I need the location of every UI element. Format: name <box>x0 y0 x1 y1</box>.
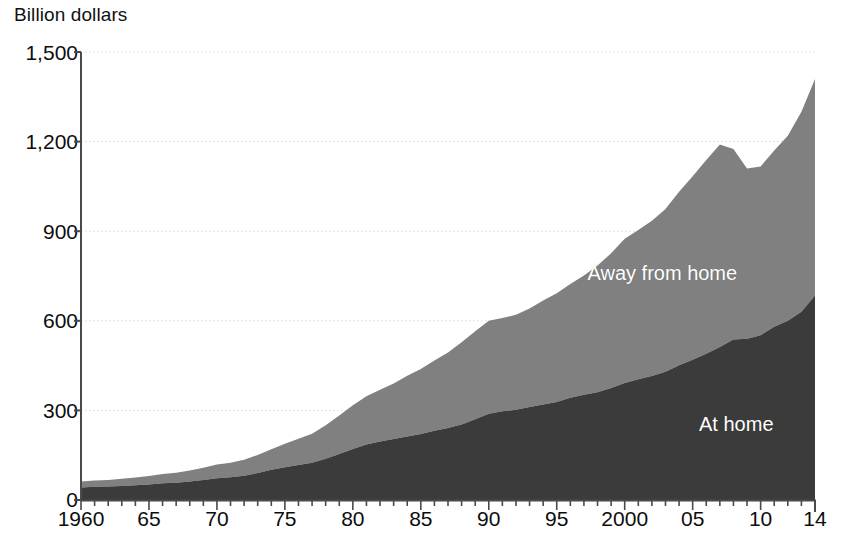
x-tick-label-1995: 95 <box>545 508 568 529</box>
x-tick-label-1990: 90 <box>477 508 500 529</box>
x-tick-label-1985: 85 <box>409 508 432 529</box>
x-tick-label-1960: 1960 <box>58 508 105 529</box>
y-axis-ticks <box>74 52 81 500</box>
x-tick-label-1970: 70 <box>205 508 228 529</box>
chart-figure: Billion dollars 1,500 1,200 900 600 300 … <box>0 0 846 556</box>
x-tick-label-2010: 10 <box>749 508 772 529</box>
series-label-away-from-home: Away from home <box>587 263 737 283</box>
x-tick-label-1980: 80 <box>341 508 364 529</box>
x-tick-label-1975: 75 <box>273 508 296 529</box>
x-tick-label-2000: 2000 <box>601 508 648 529</box>
x-tick-label-2014: 14 <box>803 508 826 529</box>
x-tick-label-1965: 65 <box>137 508 160 529</box>
x-axis-tick-labels: 1960657075808590952000051014 <box>0 508 846 538</box>
series-label-at-home: At home <box>699 414 773 434</box>
area-series-group <box>81 79 815 500</box>
x-tick-label-2005: 05 <box>681 508 704 529</box>
